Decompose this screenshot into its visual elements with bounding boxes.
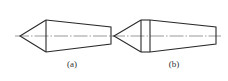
caption-a: (a) (57, 59, 87, 69)
caption-b: (b) (159, 59, 189, 69)
figure-b (111, 20, 221, 52)
figure-a (15, 20, 115, 52)
diagram-canvas (0, 0, 228, 81)
